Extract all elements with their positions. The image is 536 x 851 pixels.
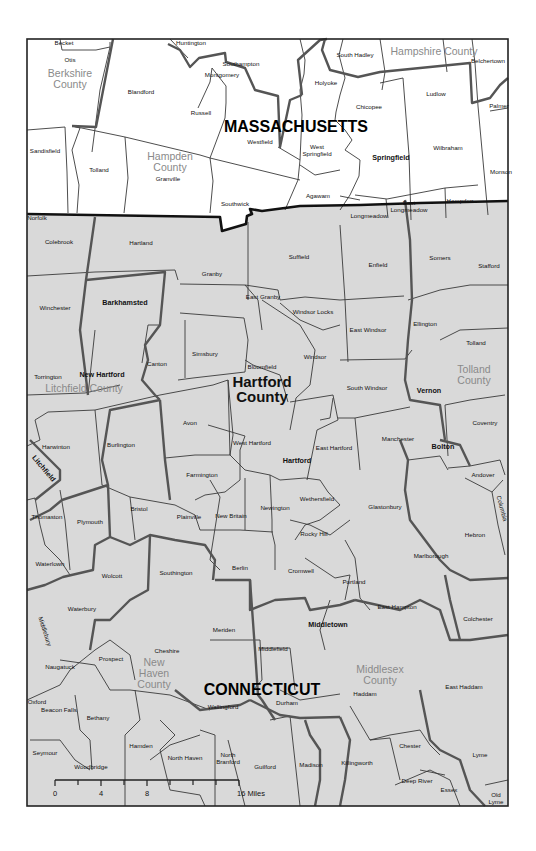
scale-label-0: 0 xyxy=(53,789,57,798)
town-label-seymour: Seymour xyxy=(33,749,58,756)
town-label-becket: Becket xyxy=(55,39,74,46)
county-label-tolland-county: TollandCounty xyxy=(457,363,491,386)
town-label-tolland: Tolland xyxy=(466,339,486,346)
town-label-east-hartford: East Hartford xyxy=(316,444,353,451)
town-label-middlefield: Middlefield xyxy=(258,645,288,652)
town-label-holyoke: Holyoke xyxy=(315,79,338,86)
town-label-essex: Essex xyxy=(441,786,459,793)
town-label-wethersfield: Wethersfield xyxy=(300,495,335,502)
town-label-colchester: Colchester xyxy=(463,615,493,622)
town-label-monson: Monson xyxy=(490,168,513,175)
county-label-hartford-county: HartfordCounty xyxy=(232,373,291,405)
town-label-southwick: Southwick xyxy=(221,200,250,207)
town-label-east-haddam: East Haddam xyxy=(445,683,483,690)
town-label-vernon: Vernon xyxy=(417,386,441,395)
town-label-torrington: Torrington xyxy=(34,373,62,380)
town-label-plymouth: Plymouth xyxy=(77,518,103,525)
town-label-sandisfield: Sandisfield xyxy=(30,147,61,154)
scale-label-8: 8 xyxy=(145,789,149,798)
town-label-newington: Newington xyxy=(260,504,290,511)
town-label-marlborough: Marlborough xyxy=(414,552,449,559)
town-label-hebron: Hebron xyxy=(465,531,486,538)
town-label-otis: Otis xyxy=(64,56,75,63)
town-label-tolland: Tolland xyxy=(89,166,109,173)
town-label-new-britain: New Britain xyxy=(215,512,247,519)
town-label-granby: Granby xyxy=(202,270,223,277)
scale-label-16-miles: 16 Miles xyxy=(237,789,265,798)
town-label-waterbury: Waterbury xyxy=(68,605,97,612)
town-label-south-windsor: South Windsor xyxy=(347,384,388,391)
town-label-beacon-falls: Beacon Falls xyxy=(41,706,77,713)
town-label-east-granby: East Granby xyxy=(246,293,281,300)
town-label-rocky-hill: Rocky Hill xyxy=(300,530,328,537)
state-label-connecticut: CONNECTICUT xyxy=(204,681,321,698)
town-label-cheshire: Cheshire xyxy=(155,647,180,654)
town-label-wallingford: Wallingford xyxy=(208,703,239,710)
town-label-belchertown: Belchertown xyxy=(471,57,506,64)
state-label-massachusetts: MASSACHUSETTS xyxy=(224,118,368,135)
town-label-thomaston: Thomaston xyxy=(32,513,64,520)
town-label-east-windsor: East Windsor xyxy=(350,326,387,333)
town-label-palmer: Palmer xyxy=(489,102,509,109)
town-label-berlin: Berlin xyxy=(232,564,248,571)
town-label-barkhamsted: Barkhamsted xyxy=(102,298,148,307)
town-label-wilbraham: Wilbraham xyxy=(433,144,463,151)
town-label-east-hampton: East Hampton xyxy=(377,603,417,610)
town-label-windsor-locks: Windsor Locks xyxy=(293,308,334,315)
town-label-wolcott: Wolcott xyxy=(102,572,123,579)
town-label-deep-river: Deep River xyxy=(402,777,433,784)
town-label-andover: Andover xyxy=(471,471,494,478)
town-label-colebrook: Colebrook xyxy=(45,238,74,245)
town-label-portland: Portland xyxy=(342,578,366,585)
town-label-blandford: Blandford xyxy=(128,88,155,95)
town-label-plainville: Plainville xyxy=(177,513,202,520)
town-label-winchester: Winchester xyxy=(40,304,71,311)
town-label-oxford: Oxford xyxy=(28,698,47,705)
town-label-cromwell: Cromwell xyxy=(288,567,314,574)
town-label-prospect: Prospect xyxy=(99,655,124,662)
town-label-south-hadley: South Hadley xyxy=(336,51,374,58)
town-label-lyme: Lyme xyxy=(473,751,488,758)
town-label-woodbridge: Woodbridge xyxy=(74,763,108,770)
town-label-waterlown: Waterlown xyxy=(36,560,66,567)
town-label-simsbury: Simsbury xyxy=(192,350,219,357)
town-label-bloomfield: Bloomfield xyxy=(248,363,277,370)
town-label-huntington: Huntington xyxy=(176,39,206,46)
town-label-coventry: Coventry xyxy=(473,419,499,426)
town-label-longmeadow: Longmeadow xyxy=(350,212,388,219)
town-label-enfield: Enfield xyxy=(369,261,388,268)
town-label-naugatuck: Naugatuck xyxy=(45,663,75,670)
town-label-westfield: Westfield xyxy=(247,138,273,145)
county-label-hampden-county: HampdenCounty xyxy=(147,150,193,173)
town-label-suffield: Suffield xyxy=(289,253,310,260)
connecticut-hartford-county-map: BerkshireCountyHampshire CountyHampdenCo… xyxy=(0,0,536,851)
town-label-meriden: Meriden xyxy=(213,626,236,633)
town-label-hamden: Hamden xyxy=(129,742,153,749)
town-label-madison: Madison xyxy=(299,761,323,768)
town-label-granville: Granville xyxy=(156,175,181,182)
town-label-guilford: Guilford xyxy=(254,763,276,770)
town-label-avon: Avon xyxy=(183,419,198,426)
county-label-berkshire-county: BerkshireCounty xyxy=(48,67,93,90)
town-label-montgomery: Montgomery xyxy=(205,71,240,78)
town-label-chicopee: Chicopee xyxy=(356,103,383,110)
town-label-bolton: Bolton xyxy=(432,442,455,451)
town-label-ellington: Ellington xyxy=(413,320,437,327)
town-label-southampton: Southampton xyxy=(223,60,260,67)
town-label-hartford: Hartford xyxy=(283,456,311,465)
town-label-canton: Canton xyxy=(147,360,168,367)
town-label-farmington: Farmington xyxy=(186,471,218,478)
county-label-hampshire-county: Hampshire County xyxy=(391,45,479,57)
town-label-russell: Russell xyxy=(191,109,211,116)
county-label-litchfield-county: Litchfield County xyxy=(45,382,123,394)
town-label-glastonbury: Glastonbury xyxy=(368,503,402,510)
town-label-bethany: Bethany xyxy=(87,714,111,721)
town-label-somers: Somers xyxy=(429,254,450,261)
town-label-manchester: Manchester xyxy=(382,435,414,442)
town-label-north-haven: North Haven xyxy=(168,754,203,761)
town-label-hartland: Hartland xyxy=(129,239,153,246)
town-label-killingworth: Killingworth xyxy=(341,759,373,766)
town-label-durham: Durham xyxy=(276,699,298,706)
town-label-west-hartford: West Hartford xyxy=(233,439,272,446)
town-label-springfield: Springfield xyxy=(372,153,410,162)
